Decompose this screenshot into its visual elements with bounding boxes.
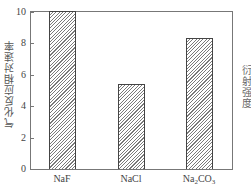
y-tick-label-10: 10 xyxy=(12,7,26,17)
y-tick-label-2: 2 xyxy=(12,133,26,143)
x-label-nacl: NaCl xyxy=(106,173,156,184)
y-tick-4 xyxy=(30,106,34,107)
y-axis-label: 气化反应相对速率 xyxy=(2,40,17,128)
bar-nacl xyxy=(118,84,145,169)
bar-na2co3 xyxy=(186,38,213,169)
y2-axis-label: 衍射强度 xyxy=(238,65,251,109)
y-tick-10 xyxy=(30,12,34,13)
y-tick-8 xyxy=(30,43,34,44)
plot-area xyxy=(30,11,233,170)
y-tick-6 xyxy=(30,75,34,76)
bar-naf xyxy=(49,11,76,169)
y-tick-2 xyxy=(30,138,34,139)
na2co3-prefix: Na xyxy=(183,173,195,184)
y-tick-label-0: 0 xyxy=(12,164,26,174)
y-tick-0 xyxy=(30,169,34,170)
na2co3-mid: CO xyxy=(198,173,212,184)
x-label-naf: NaF xyxy=(37,173,87,184)
x-label-na2co3: Na2CO3 xyxy=(174,173,224,186)
na2co3-sub2: 3 xyxy=(212,178,216,186)
